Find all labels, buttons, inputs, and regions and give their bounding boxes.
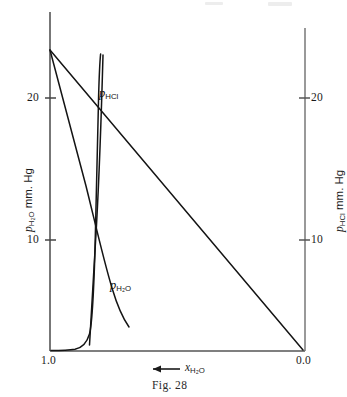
left-axis-title-units: mm. Hg (22, 168, 34, 211)
curve-label-p-hcl: pHCl (99, 86, 118, 101)
x-tick-label-left: 1.0 (41, 354, 56, 366)
left-axis-title-symbol: p (22, 226, 34, 232)
curve-label-p-h2o-subscript: H₂O (116, 284, 131, 293)
x-axis-symbol: xH₂O (185, 361, 205, 375)
left-tick-label-10: 10 (27, 233, 39, 245)
right-axis-title-symbol: p (333, 226, 345, 232)
left-tick-label-20: 20 (27, 91, 39, 103)
left-axis-title: pH₂O mm. Hg (22, 168, 36, 232)
curve-label-p-h2o: pH₂O (110, 278, 131, 293)
x-axis-direction-arrow (153, 365, 180, 372)
x-axis-symbol-subscript: H₂O (190, 366, 205, 375)
curve-p-hcl-straight (50, 50, 303, 350)
curve-p-h2o-baseline (51, 54, 101, 351)
right-axis-title-subscript: HCl (338, 213, 347, 226)
right-tick-label-20: 20 (311, 91, 323, 103)
figure-caption: Fig. 28 (152, 379, 187, 391)
left-axis-title-subscript: H₂O (27, 211, 36, 226)
right-axis-title-units: mm. Hg (333, 170, 345, 213)
right-tick-label-10: 10 (311, 233, 323, 245)
x-tick-label-right: 0.0 (296, 354, 311, 366)
right-axis-title: pHCl mm. Hg (333, 170, 347, 232)
curve-label-p-hcl-subscript: HCl (105, 92, 118, 101)
